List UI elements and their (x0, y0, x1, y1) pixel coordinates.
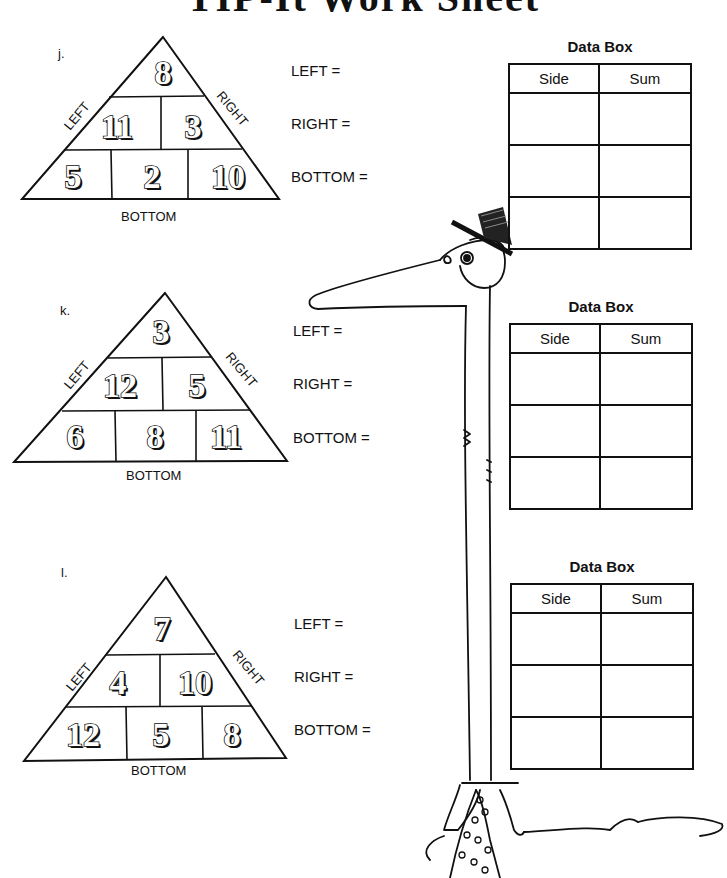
sum-cell[interactable] (600, 457, 692, 509)
sum-cell[interactable] (601, 613, 693, 665)
cell-bottom-middle: 5 (153, 716, 170, 753)
data-box-title: Data Box (509, 298, 693, 315)
data-box-table: SideSum (509, 323, 693, 510)
column-header-side: Side (511, 584, 601, 613)
sum-cell[interactable] (600, 353, 692, 405)
side-cell[interactable] (510, 353, 600, 405)
cell-middle-left: 4 (110, 664, 127, 701)
bottom-side-label: BOTTOM (131, 763, 186, 778)
column-header-side: Side (509, 64, 599, 93)
cell-bottom-right: 8 (224, 716, 241, 753)
column-header-side: Side (510, 324, 600, 353)
data-box-title: Data Box (510, 558, 694, 575)
bottom-equation: BOTTOM = (294, 721, 371, 738)
side-cell[interactable] (509, 197, 599, 249)
sum-cell[interactable] (601, 717, 693, 769)
side-cell[interactable] (510, 405, 600, 457)
data-box-k: Data Box SideSum (509, 298, 693, 510)
side-cell[interactable] (511, 613, 601, 665)
data-box-table: SideSum (508, 63, 692, 250)
side-cell[interactable] (509, 145, 599, 197)
column-header-sum: Sum (601, 584, 693, 613)
data-box-j: Data Box SideSum (508, 38, 692, 250)
right-equation: RIGHT = (293, 375, 352, 392)
data-box-l: Data Box SideSum (510, 558, 694, 770)
column-header-sum: Sum (599, 64, 691, 93)
right-equation: RIGHT = (294, 668, 353, 685)
column-header-sum: Sum (600, 324, 692, 353)
data-box-table: SideSum (510, 583, 694, 770)
left-equation: LEFT = (294, 615, 343, 632)
side-cell[interactable] (509, 93, 599, 145)
sum-cell[interactable] (599, 197, 691, 249)
left-equation: LEFT = (293, 322, 342, 339)
sum-cell[interactable] (599, 93, 691, 145)
cell-bottom-left: 12 (66, 716, 100, 753)
cell-top: 7 (154, 610, 171, 647)
sum-cell[interactable] (600, 405, 692, 457)
side-cell[interactable] (511, 665, 601, 717)
bottom-equation: BOTTOM = (291, 168, 368, 185)
sum-cell[interactable] (599, 145, 691, 197)
number-triangle: 77 44 1010 1212 55 88 LEFT RIGHT BOTTOM (0, 0, 300, 800)
side-cell[interactable] (510, 457, 600, 509)
sum-cell[interactable] (601, 665, 693, 717)
cell-middle-right: 10 (178, 664, 212, 701)
data-box-title: Data Box (508, 38, 692, 55)
side-cell[interactable] (511, 717, 601, 769)
bottom-equation: BOTTOM = (293, 429, 370, 446)
